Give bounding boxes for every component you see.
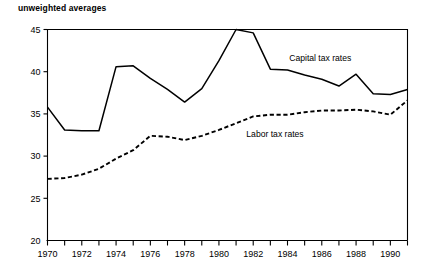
y-tick-label: 20	[30, 236, 40, 246]
series-line-0	[48, 30, 408, 131]
chart-axes	[47, 30, 408, 241]
series-annotations: Capital tax ratesLabor tax rates	[246, 53, 351, 139]
x-tick-label: 1972	[72, 249, 92, 259]
x-tick-label: 1988	[346, 249, 366, 259]
chart-series-layer	[48, 30, 408, 179]
y-tick-label: 45	[30, 25, 40, 35]
y-tick-label: 35	[30, 109, 40, 119]
x-tick-label: 1982	[243, 249, 263, 259]
series-label-1: Labor tax rates	[246, 129, 303, 139]
x-tick-label: 1990	[380, 249, 400, 259]
series-line-1	[48, 100, 408, 178]
series-label-0: Capital tax rates	[289, 53, 351, 63]
x-tick-label: 1976	[140, 249, 160, 259]
line-chart-canvas: 202530354045 197019721974197619781980198…	[0, 0, 429, 278]
plot-frame	[48, 30, 408, 241]
x-tick-label: 1986	[312, 249, 332, 259]
y-tick-label: 40	[30, 67, 40, 77]
x-tick-label: 1974	[106, 249, 126, 259]
x-tick-label: 1980	[209, 249, 229, 259]
y-axis-ticks: 202530354045	[30, 25, 47, 246]
x-tick-label: 1978	[175, 249, 195, 259]
x-tick-label: 1970	[37, 249, 57, 259]
x-axis-ticks: 1970197219741976197819801982198419861988…	[37, 241, 407, 259]
x-tick-label: 1984	[277, 249, 297, 259]
y-tick-label: 30	[30, 151, 40, 161]
y-tick-label: 25	[30, 194, 40, 204]
chart-figure: unweighted averages 202530354045 1970197…	[0, 0, 429, 278]
